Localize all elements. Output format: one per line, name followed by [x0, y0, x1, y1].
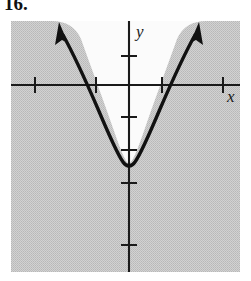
parabola-figure: y x — [11, 21, 240, 272]
problem-number: 16. — [4, 0, 28, 15]
y-axis-label: y — [134, 22, 144, 41]
x-axis-label: x — [226, 87, 235, 106]
parabola-graph-svg: y x — [11, 21, 240, 272]
